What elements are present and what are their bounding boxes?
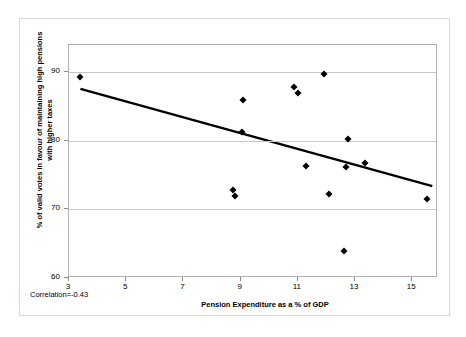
correlation-annotation: Correlation=-0.43	[30, 290, 88, 299]
trendline-svg	[69, 45, 438, 278]
x-axis-label: Pension Expenditure as a % of GDP	[135, 300, 395, 309]
gridline-y-70	[69, 209, 436, 210]
trendline	[80, 89, 432, 186]
scatter-plot-figure: 607080903579111315 % of valid votes in f…	[0, 0, 466, 337]
plot-area	[68, 44, 437, 277]
gridline-y-80	[69, 141, 436, 142]
y-axis-label: % of valid votes in favour of maintainin…	[35, 25, 55, 235]
gridline-y-90	[69, 72, 436, 73]
